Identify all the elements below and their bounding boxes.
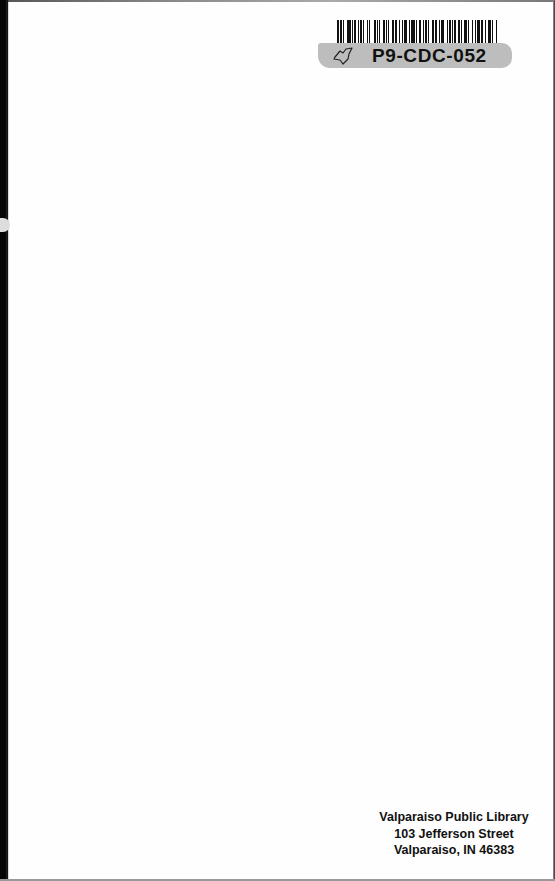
barcode-label-band: P9-CDC-052 [318, 43, 512, 68]
barcode-gap [497, 20, 498, 44]
library-city-state-zip: Valparaiso, IN 46383 [368, 842, 540, 859]
library-address-stamp: Valparaiso Public Library 103 Jefferson … [368, 809, 540, 859]
library-name: Valparaiso Public Library [368, 809, 540, 826]
barcode-sticker: P9-CDC-052 [318, 18, 514, 70]
library-street: 103 Jefferson Street [368, 826, 540, 843]
barcode [337, 20, 498, 44]
state-map-outline-icon [332, 47, 354, 65]
barcode-code-text: P9-CDC-052 [372, 45, 487, 67]
page-top-edge [0, 0, 555, 2]
document-page: P9-CDC-052 Valparaiso Public Library 103… [0, 0, 555, 881]
book-binding-edge [0, 0, 8, 881]
